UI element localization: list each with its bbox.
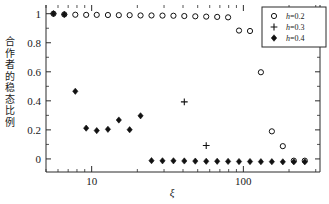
marker-open-circle	[84, 12, 89, 17]
marker-filled-diamond	[215, 158, 220, 164]
marker-filled-diamond	[149, 158, 154, 164]
marker-plus	[181, 98, 188, 105]
marker-filled-diamond	[236, 158, 241, 164]
plot-canvas: 00.20.40.60.81 10100 h=0.2h=0.3h=0.4 ξ	[0, 0, 329, 204]
y-tick-label: 0	[36, 153, 42, 165]
y-axis-title: 合作者的稳态比例	[2, 36, 18, 128]
marker-open-circle	[138, 13, 143, 18]
x-axis-title: ξ	[170, 186, 175, 199]
marker-open-circle	[149, 13, 154, 18]
marker-filled-diamond	[94, 127, 99, 133]
x-tick-label: 10	[86, 175, 98, 187]
marker-filled-diamond	[127, 127, 132, 133]
marker-open-circle	[116, 13, 121, 18]
y-tick-label: 1	[36, 8, 42, 20]
marker-filled-diamond	[105, 126, 110, 132]
legend: h=0.2h=0.3h=0.4	[262, 7, 326, 47]
legend-label-2: h=0.4	[286, 34, 305, 43]
marker-open-circle	[171, 13, 176, 18]
marker-filled-diamond	[116, 117, 121, 123]
marker-open-circle	[160, 13, 165, 18]
series-h03	[181, 98, 210, 148]
legend-label-0: h=0.2	[286, 12, 305, 21]
marker-open-circle	[215, 14, 220, 19]
y-tick-label: 0.6	[27, 66, 41, 78]
marker-open-circle	[204, 14, 209, 19]
scatter-chart-figure: 合作者的稳态比例 00.20.40.60.81 10100 h=0.2h=0.3…	[0, 0, 329, 204]
marker-open-circle	[94, 12, 99, 17]
marker-filled-diamond	[182, 158, 187, 164]
y-tick-label: 0.2	[27, 124, 41, 136]
marker-open-circle	[105, 12, 110, 17]
marker-filled-diamond	[193, 158, 198, 164]
marker-filled-diamond	[73, 88, 78, 94]
y-axis-tick-labels: 00.20.40.60.81	[27, 8, 41, 165]
legend-label-1: h=0.3	[286, 23, 305, 32]
marker-filled-diamond	[138, 113, 143, 119]
marker-filled-diamond	[269, 159, 274, 165]
marker-open-circle	[182, 13, 187, 18]
marker-open-circle	[280, 144, 285, 149]
y-tick-label: 0.8	[27, 37, 41, 49]
marker-open-circle	[236, 28, 241, 33]
y-tick-label: 0.4	[27, 95, 41, 107]
marker-filled-diamond	[171, 158, 176, 164]
marker-open-circle	[193, 14, 198, 19]
marker-filled-diamond	[160, 158, 165, 164]
marker-filled-diamond	[204, 158, 209, 164]
marker-filled-diamond	[225, 158, 230, 164]
x-tick-label: 100	[235, 175, 252, 187]
marker-plus	[203, 142, 210, 149]
marker-filled-diamond	[247, 158, 252, 164]
marker-open-circle	[247, 28, 252, 33]
marker-filled-diamond	[258, 159, 263, 165]
marker-filled-diamond	[280, 159, 285, 165]
marker-filled-diamond	[84, 125, 89, 131]
marker-open-circle	[258, 70, 263, 75]
marker-open-circle	[225, 15, 230, 20]
marker-open-circle	[127, 13, 132, 18]
marker-open-circle	[73, 12, 78, 17]
marker-open-circle	[269, 129, 274, 134]
